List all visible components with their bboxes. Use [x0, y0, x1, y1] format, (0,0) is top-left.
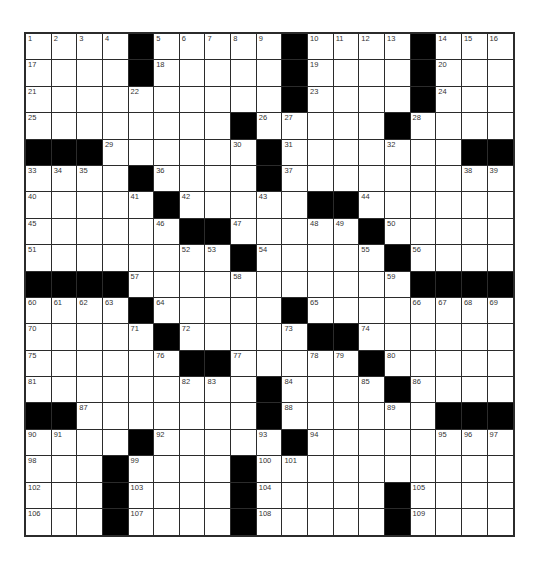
grid-cell[interactable]: [359, 166, 385, 192]
grid-cell[interactable]: [154, 483, 180, 509]
grid-cell[interactable]: [411, 430, 437, 456]
grid-cell[interactable]: [205, 60, 231, 86]
grid-cell[interactable]: [77, 483, 103, 509]
grid-cell[interactable]: 50: [385, 219, 411, 245]
grid-cell[interactable]: [462, 509, 488, 535]
grid-cell[interactable]: 21: [26, 87, 52, 113]
grid-cell[interactable]: 37: [282, 166, 308, 192]
grid-cell[interactable]: [462, 192, 488, 218]
grid-cell[interactable]: 23: [308, 87, 334, 113]
grid-cell[interactable]: [334, 166, 360, 192]
grid-cell[interactable]: [77, 245, 103, 271]
grid-cell[interactable]: [308, 272, 334, 298]
grid-cell[interactable]: 16: [488, 34, 514, 60]
grid-cell[interactable]: [359, 509, 385, 535]
grid-cell[interactable]: [334, 509, 360, 535]
grid-cell[interactable]: [385, 430, 411, 456]
grid-cell[interactable]: [282, 219, 308, 245]
grid-cell[interactable]: [77, 430, 103, 456]
grid-cell[interactable]: [462, 87, 488, 113]
grid-cell[interactable]: 93: [257, 430, 283, 456]
grid-cell[interactable]: [282, 245, 308, 271]
grid-cell[interactable]: [462, 456, 488, 482]
grid-cell[interactable]: [385, 87, 411, 113]
grid-cell[interactable]: [52, 60, 78, 86]
grid-cell[interactable]: [129, 377, 155, 403]
grid-cell[interactable]: 78: [308, 351, 334, 377]
grid-cell[interactable]: [308, 377, 334, 403]
grid-cell[interactable]: [154, 140, 180, 166]
grid-cell[interactable]: [436, 456, 462, 482]
grid-cell[interactable]: 40: [26, 192, 52, 218]
grid-cell[interactable]: [411, 166, 437, 192]
grid-cell[interactable]: [282, 509, 308, 535]
grid-cell[interactable]: 12: [359, 34, 385, 60]
grid-cell[interactable]: [308, 509, 334, 535]
grid-cell[interactable]: [205, 113, 231, 139]
grid-cell[interactable]: [154, 245, 180, 271]
grid-cell[interactable]: 83: [205, 377, 231, 403]
grid-cell[interactable]: 104: [257, 483, 283, 509]
grid-cell[interactable]: 69: [488, 298, 514, 324]
grid-cell[interactable]: [488, 377, 514, 403]
grid-cell[interactable]: [77, 351, 103, 377]
grid-cell[interactable]: [411, 192, 437, 218]
grid-cell[interactable]: [103, 377, 129, 403]
grid-cell[interactable]: 59: [385, 272, 411, 298]
grid-cell[interactable]: [436, 113, 462, 139]
grid-cell[interactable]: [103, 60, 129, 86]
grid-cell[interactable]: [462, 377, 488, 403]
grid-cell[interactable]: 86: [411, 377, 437, 403]
grid-cell[interactable]: [52, 456, 78, 482]
grid-cell[interactable]: 60: [26, 298, 52, 324]
grid-cell[interactable]: 8: [231, 34, 257, 60]
grid-cell[interactable]: 100: [257, 456, 283, 482]
grid-cell[interactable]: 68: [462, 298, 488, 324]
grid-cell[interactable]: 63: [103, 298, 129, 324]
grid-cell[interactable]: 27: [282, 113, 308, 139]
grid-cell[interactable]: [103, 192, 129, 218]
grid-cell[interactable]: [231, 87, 257, 113]
grid-cell[interactable]: [282, 192, 308, 218]
grid-cell[interactable]: 22: [129, 87, 155, 113]
grid-cell[interactable]: [129, 245, 155, 271]
grid-cell[interactable]: 57: [129, 272, 155, 298]
grid-cell[interactable]: [52, 483, 78, 509]
grid-cell[interactable]: [257, 219, 283, 245]
grid-cell[interactable]: 65: [308, 298, 334, 324]
grid-cell[interactable]: [77, 87, 103, 113]
grid-cell[interactable]: [257, 298, 283, 324]
grid-cell[interactable]: 64: [154, 298, 180, 324]
grid-cell[interactable]: [359, 403, 385, 429]
grid-cell[interactable]: [205, 483, 231, 509]
grid-cell[interactable]: [205, 403, 231, 429]
grid-cell[interactable]: 48: [308, 219, 334, 245]
grid-cell[interactable]: 80: [385, 351, 411, 377]
grid-cell[interactable]: [462, 113, 488, 139]
grid-cell[interactable]: 5: [154, 34, 180, 60]
grid-cell[interactable]: [103, 166, 129, 192]
grid-cell[interactable]: [205, 324, 231, 350]
grid-cell[interactable]: [205, 192, 231, 218]
grid-cell[interactable]: 20: [436, 60, 462, 86]
grid-cell[interactable]: 58: [231, 272, 257, 298]
grid-cell[interactable]: [488, 483, 514, 509]
grid-cell[interactable]: 46: [154, 219, 180, 245]
grid-cell[interactable]: 25: [26, 113, 52, 139]
grid-cell[interactable]: 79: [334, 351, 360, 377]
grid-cell[interactable]: [488, 60, 514, 86]
grid-cell[interactable]: [282, 483, 308, 509]
grid-cell[interactable]: [436, 140, 462, 166]
grid-cell[interactable]: 66: [411, 298, 437, 324]
grid-cell[interactable]: [488, 351, 514, 377]
grid-cell[interactable]: [103, 403, 129, 429]
grid-cell[interactable]: [52, 219, 78, 245]
grid-cell[interactable]: [488, 509, 514, 535]
grid-cell[interactable]: 17: [26, 60, 52, 86]
grid-cell[interactable]: [52, 87, 78, 113]
grid-cell[interactable]: [77, 113, 103, 139]
grid-cell[interactable]: [129, 113, 155, 139]
grid-cell[interactable]: [103, 219, 129, 245]
grid-cell[interactable]: [77, 509, 103, 535]
grid-cell[interactable]: [462, 324, 488, 350]
